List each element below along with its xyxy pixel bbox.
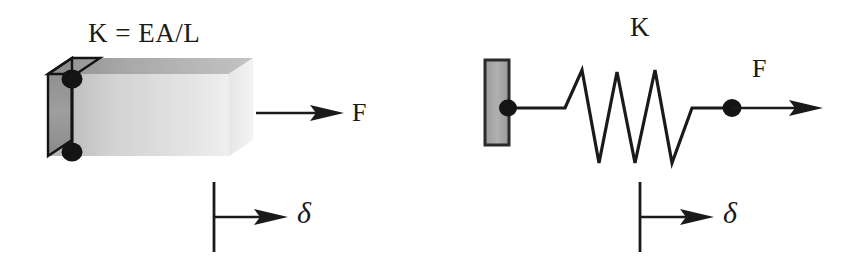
spring-diagram-panel: K F δ — [427, 0, 854, 265]
spring-force-label: F — [752, 56, 766, 82]
bar-right-face — [229, 58, 253, 156]
spring-node-fixed — [499, 100, 517, 117]
bar-displacement-label: δ — [297, 198, 311, 228]
bar-node-top — [62, 70, 83, 89]
spring-coil — [505, 70, 732, 163]
spring-graphic — [427, 0, 854, 265]
bar-node-bottom — [62, 143, 83, 162]
bar-diagram-panel: K = EA/L — [0, 0, 427, 265]
spring-displacement-label: δ — [723, 198, 737, 228]
figure-root: K = EA/L — [0, 0, 854, 265]
bar-force-label: F — [352, 100, 366, 126]
bar-graphic — [0, 0, 427, 265]
